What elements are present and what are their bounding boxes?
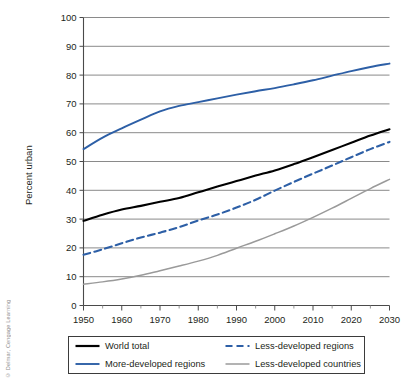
- legend-swatch-icon: [225, 341, 250, 351]
- legend-label: More-developed regions: [105, 359, 205, 369]
- y-tick-label: 10: [66, 271, 77, 282]
- x-tick-labels: 195019601970198019902000201020202030: [73, 314, 400, 325]
- legend-item[interactable]: Less-developed countries: [225, 355, 372, 373]
- legend-label: Less-developed countries: [255, 359, 361, 369]
- y-axis: [80, 18, 84, 306]
- series-line-less-developed-countries: [84, 179, 390, 284]
- series-line-less-developed-regions: [84, 142, 390, 255]
- y-tick-label: 60: [66, 127, 77, 138]
- x-tick-label: 2000: [264, 314, 285, 325]
- y-tick-label: 100: [61, 12, 77, 23]
- y-tick-label: 0: [71, 300, 76, 311]
- x-tick-label: 2020: [341, 314, 362, 325]
- y-tick-label: 50: [66, 156, 77, 167]
- x-tick-label: 1980: [188, 314, 209, 325]
- x-tick-label: 1950: [73, 314, 94, 325]
- legend-swatch-icon: [75, 341, 100, 351]
- legend-label: Less-developed regions: [255, 341, 354, 351]
- legend-item[interactable]: Less-developed regions: [225, 337, 372, 355]
- x-tick-label: 1990: [226, 314, 247, 325]
- data-series-group: [84, 64, 390, 285]
- legend-item[interactable]: World total: [75, 337, 225, 355]
- y-tick-label: 90: [66, 41, 77, 52]
- legend-swatch-icon: [75, 359, 100, 369]
- line-chart-plot: 0102030405060708090100 19501960197019801…: [0, 0, 420, 387]
- legend-grid: World totalLess-developed regionsMore-de…: [69, 337, 364, 373]
- y-tick-label: 30: [66, 214, 77, 225]
- figure-container: © Delmar, Cengage Learning Percent urban…: [0, 0, 420, 387]
- gridlines: [84, 18, 390, 277]
- y-tick-labels: 0102030405060708090100: [61, 12, 77, 311]
- y-tick-label: 80: [66, 70, 77, 81]
- legend-item[interactable]: More-developed regions: [75, 355, 225, 373]
- x-axis: [84, 306, 390, 311]
- y-tick-label: 70: [66, 98, 77, 109]
- chart-legend: World totalLess-developed regionsMore-de…: [68, 336, 365, 374]
- x-tick-label: 2010: [302, 314, 323, 325]
- legend-label: World total: [105, 341, 149, 351]
- x-tick-label: 1970: [149, 314, 170, 325]
- x-tick-label: 2030: [379, 314, 400, 325]
- legend-swatch-icon: [225, 359, 250, 369]
- y-tick-label: 40: [66, 185, 77, 196]
- series-line-more-developed-regions: [84, 64, 390, 150]
- x-tick-label: 1960: [111, 314, 132, 325]
- y-tick-label: 20: [66, 242, 77, 253]
